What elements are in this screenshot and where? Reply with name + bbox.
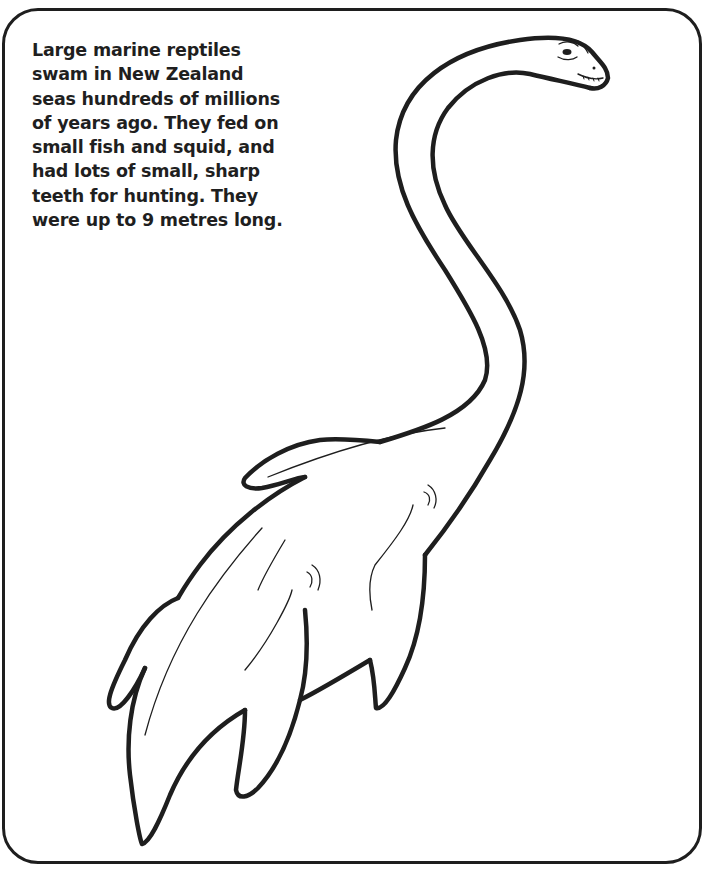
body xyxy=(109,439,425,844)
neck-and-head xyxy=(380,38,608,555)
eye-icon xyxy=(563,49,572,55)
plesiosaur-illustration xyxy=(0,0,717,874)
head-details xyxy=(558,41,603,81)
